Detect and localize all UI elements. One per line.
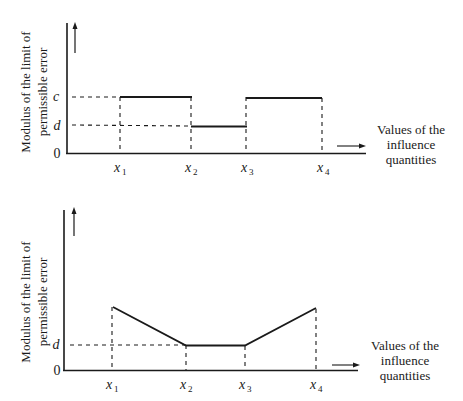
svg-text:x: x: [184, 160, 192, 175]
svg-text:3: 3: [249, 167, 254, 177]
bottom-ytick-d: d: [53, 337, 61, 352]
top-up-arrow-icon: [73, 22, 78, 53]
top-xtick-x3: x 3: [240, 160, 254, 177]
top-step-curve: [120, 97, 322, 127]
bottom-xtick-x3: x 3: [238, 377, 252, 394]
bottom-ylabel-line1: Modulus of the limit of: [18, 241, 33, 363]
top-ytick-c: c: [53, 89, 60, 104]
bottom-dashed-guides: [70, 307, 316, 370]
top-dashed-guides: [72, 97, 322, 153]
svg-text:x: x: [309, 377, 317, 392]
svg-text:3: 3: [247, 384, 252, 394]
svg-text:4: 4: [318, 384, 323, 394]
svg-text:1: 1: [122, 167, 127, 177]
top-ylabel-line2: permissible error: [35, 47, 50, 136]
bottom-up-arrow-icon: [72, 207, 77, 236]
svg-text:x: x: [240, 160, 248, 175]
bottom-ylabel-line2: permissible error: [35, 257, 50, 346]
top-xlabel-line3: quantities: [386, 152, 437, 167]
top-xtick-x2: x 2: [184, 160, 198, 177]
bottom-ytick-zero: 0: [54, 363, 61, 378]
svg-text:x: x: [238, 377, 246, 392]
bottom-right-arrow-icon: [332, 363, 360, 368]
bottom-diagram: Modulus of the limit of permissible erro…: [18, 207, 439, 394]
top-xlabel-line1: Values of the: [377, 122, 445, 137]
svg-text:x: x: [316, 160, 324, 175]
top-ytick-d: d: [54, 118, 62, 133]
svg-text:x: x: [179, 377, 187, 392]
top-ylabel-line1: Modulus of the limit of: [18, 31, 33, 153]
bottom-xtick-x1: x 1: [105, 377, 119, 394]
top-xtick-x4: x 4: [316, 160, 330, 177]
bottom-xtick-x4: x 4: [309, 377, 323, 394]
bottom-xlabel-line3: quantities: [380, 368, 431, 383]
svg-text:4: 4: [325, 167, 330, 177]
bottom-xlabel-line1: Values of the: [371, 338, 439, 353]
top-right-arrow-icon: [337, 144, 366, 149]
bottom-xtick-x2: x 2: [179, 377, 193, 394]
top-xlabel-line2: influence: [387, 137, 436, 152]
svg-text:2: 2: [193, 167, 198, 177]
svg-text:x: x: [113, 160, 121, 175]
svg-text:1: 1: [114, 384, 119, 394]
top-xtick-x1: x 1: [113, 160, 127, 177]
svg-text:2: 2: [188, 384, 193, 394]
svg-text:x: x: [105, 377, 113, 392]
bottom-xlabel-line2: influence: [381, 353, 430, 368]
top-diagram: Modulus of the limit of permissible erro…: [18, 22, 445, 177]
bottom-error-curve: [113, 307, 316, 346]
top-ytick-zero: 0: [54, 146, 61, 161]
diagram-canvas: Modulus of the limit of permissible erro…: [0, 0, 463, 401]
